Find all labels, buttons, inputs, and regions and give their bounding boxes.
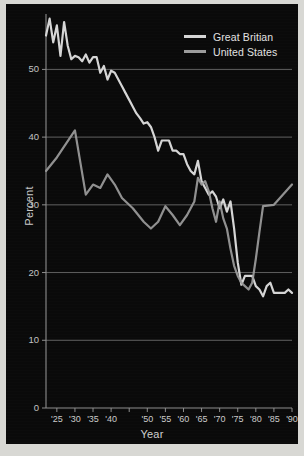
page-root: 01020304050 '25'30'35'40'50'55'60'65'70'… <box>0 0 304 456</box>
axis-lines-group <box>42 14 292 408</box>
y-axis-label: Percent <box>23 171 35 241</box>
line-chart-svg <box>6 4 298 444</box>
x-tick-label: '40 <box>105 414 117 424</box>
y-tick-label: 10 <box>13 334 39 345</box>
legend-label-united-states: United States <box>213 46 277 58</box>
x-tick-label: '65 <box>196 414 208 424</box>
x-tick-label: '85 <box>268 414 280 424</box>
x-axis-label: Year <box>6 428 298 440</box>
legend-item-great-britain: Great Britian <box>184 30 277 43</box>
legend-item-united-states: United States <box>184 45 277 58</box>
chart-legend: Great Britian United States <box>184 30 277 60</box>
x-tick-label: '90 <box>286 414 298 424</box>
x-tick-label: '30 <box>69 414 81 424</box>
x-tick-label: '80 <box>250 414 262 424</box>
x-tick-label: '75 <box>232 414 244 424</box>
y-tick-label: 0 <box>13 402 39 413</box>
y-tick-label: 20 <box>13 267 39 278</box>
legend-label-great-britain: Great Britian <box>213 31 273 43</box>
x-tick-label: '70 <box>214 414 226 424</box>
x-tick-marks-group <box>57 408 292 412</box>
x-tick-label: '55 <box>160 414 172 424</box>
x-tick-label: '50 <box>141 414 153 424</box>
data-series-group <box>46 19 292 297</box>
legend-swatch-united-states <box>184 50 206 53</box>
x-tick-label: '60 <box>178 414 190 424</box>
x-tick-label: '35 <box>87 414 99 424</box>
gridlines-group <box>46 69 292 340</box>
chart-figure: 01020304050 '25'30'35'40'50'55'60'65'70'… <box>6 4 298 444</box>
x-tick-label: '25 <box>51 414 63 424</box>
y-tick-label: 50 <box>13 63 39 74</box>
y-tick-label: 40 <box>13 131 39 142</box>
legend-swatch-great-britain <box>184 35 206 38</box>
series-line-great-britian <box>46 19 292 297</box>
series-line-united-states <box>46 130 292 289</box>
